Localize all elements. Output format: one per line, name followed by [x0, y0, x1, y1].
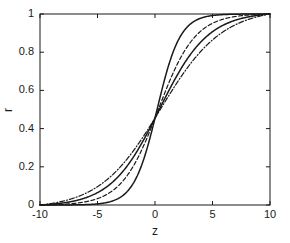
- data-series-curve-2: [40, 14, 270, 205]
- data-series-curve-4: [40, 14, 270, 205]
- figure-container: 00.20.40.60.81 -10-50510 z r: [0, 0, 290, 243]
- data-series-curve-3: [40, 14, 270, 205]
- y-tick-label: 0.8: [0, 46, 34, 57]
- plot-axes-frame: [40, 14, 270, 205]
- x-tick-label: -10: [20, 209, 60, 220]
- line-chart-plot: [0, 0, 290, 243]
- y-axis-title: r: [2, 90, 14, 130]
- data-series-curve-1: [40, 14, 270, 205]
- x-tick-label: 5: [193, 209, 233, 220]
- x-tick-label: 0: [135, 209, 175, 220]
- data-series-group: [40, 14, 270, 205]
- y-tick-label: 1: [0, 8, 34, 19]
- x-axis-title: z: [135, 225, 175, 237]
- x-tick-label: 10: [250, 209, 290, 220]
- y-tick-marks: [40, 14, 270, 205]
- y-tick-label: 0.2: [0, 161, 34, 172]
- x-tick-label: -5: [78, 209, 118, 220]
- axes-box: [40, 14, 270, 205]
- x-tick-marks: [40, 14, 270, 205]
